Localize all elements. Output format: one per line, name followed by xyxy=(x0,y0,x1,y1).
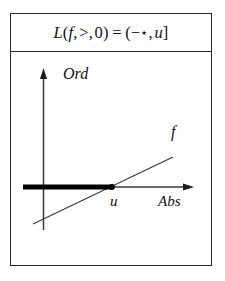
formula-interval-close: ] xyxy=(163,23,169,42)
ordinate-arrow-icon xyxy=(40,68,47,79)
formula-bound-u: u xyxy=(154,23,162,42)
formula-arg-zero: 0 xyxy=(94,23,102,42)
formula-comma-1: , xyxy=(73,23,77,42)
function-curve-label: f xyxy=(171,123,175,141)
ordinate-axis xyxy=(40,68,47,230)
formula-minus-sign: − xyxy=(131,23,141,42)
threshold-point-label: u xyxy=(110,193,118,210)
plot-canvas xyxy=(11,52,211,265)
formula-relation-gt: > xyxy=(79,23,89,42)
formula-equals: = xyxy=(112,23,122,42)
function-line-f xyxy=(33,157,173,224)
formula-close-paren: ) xyxy=(103,23,109,42)
ordinate-axis-label: Ord xyxy=(63,65,88,83)
formula-comma-2: , xyxy=(89,23,93,42)
solution-ray xyxy=(23,184,115,190)
abscissa-axis-label: Abs xyxy=(158,193,181,210)
formula-comma-3: , xyxy=(149,23,153,42)
closed-endpoint-dot xyxy=(109,184,115,190)
plot-area: Ord Abs f u xyxy=(11,52,211,265)
figure-root: L(f,>,0)=(−⋆,u] Ord Abs xyxy=(0,0,225,281)
title-formula: L(f,>,0)=(−⋆,u] xyxy=(53,23,168,43)
formula-banner: L(f,>,0)=(−⋆,u] xyxy=(11,14,211,52)
formula-function-L: L xyxy=(53,23,62,42)
abscissa-arrow-icon xyxy=(183,184,194,191)
star-icon: ⋆ xyxy=(140,25,148,40)
